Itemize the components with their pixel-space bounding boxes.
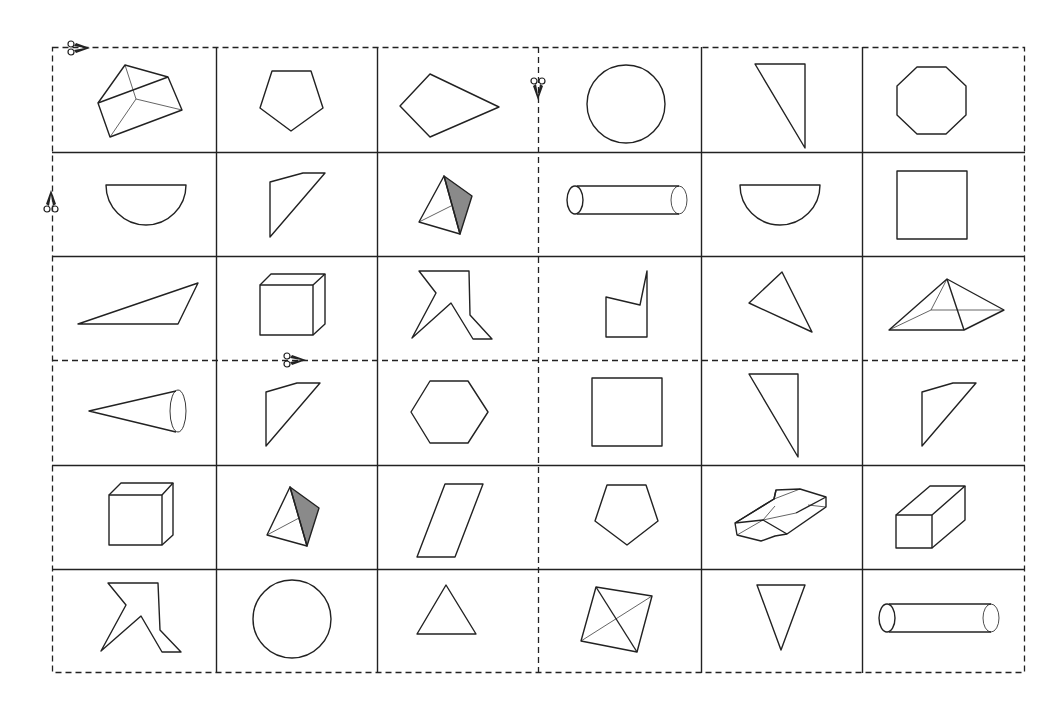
card-tetrahedron-shaded	[267, 487, 319, 546]
card-equilateral-triangle	[417, 585, 476, 634]
card-obtuse-triangle	[78, 283, 198, 324]
card-octagon	[897, 67, 966, 134]
card-square-pyramid	[889, 279, 1004, 330]
card-quadrilateral	[266, 383, 320, 446]
card-right-triangle	[755, 64, 805, 148]
card-tetrahedron-shaded	[419, 176, 472, 234]
card-cylinder	[879, 604, 999, 632]
shape-cards-sheet	[0, 0, 1043, 705]
card-semicircle	[106, 185, 186, 225]
card-right-triangle	[749, 374, 798, 457]
card-rectangular-prism	[896, 486, 965, 548]
card-hexagonal-prism	[735, 489, 826, 541]
card-quadrilateral	[922, 383, 976, 446]
card-square	[897, 171, 967, 239]
card-pentagon	[260, 71, 323, 131]
card-cone	[89, 390, 186, 432]
card-semicircle	[740, 185, 820, 225]
card-square-pyramid-top-view	[581, 587, 652, 652]
scissors-icon	[68, 41, 90, 55]
card-inverted-triangle	[757, 585, 805, 650]
card-parallelogram	[417, 484, 483, 557]
card-pentagon	[595, 485, 658, 545]
cut-lines	[52, 47, 1025, 673]
card-circle	[253, 580, 331, 658]
scissors-icon	[44, 190, 58, 212]
card-circle	[587, 65, 665, 143]
card-hexagon	[411, 381, 488, 443]
card-cube	[109, 483, 173, 545]
card-cylinder	[567, 186, 687, 214]
card-irregular-polygon	[412, 271, 492, 339]
card-triangular-prism	[98, 65, 182, 137]
card-quadrilateral	[270, 173, 325, 237]
card-kite	[400, 74, 499, 137]
card-concave-pentagon	[606, 271, 647, 337]
card-scalene-triangle	[749, 272, 812, 332]
card-irregular-polygon	[101, 583, 181, 652]
card-cube	[260, 274, 325, 335]
card-square	[592, 378, 662, 446]
